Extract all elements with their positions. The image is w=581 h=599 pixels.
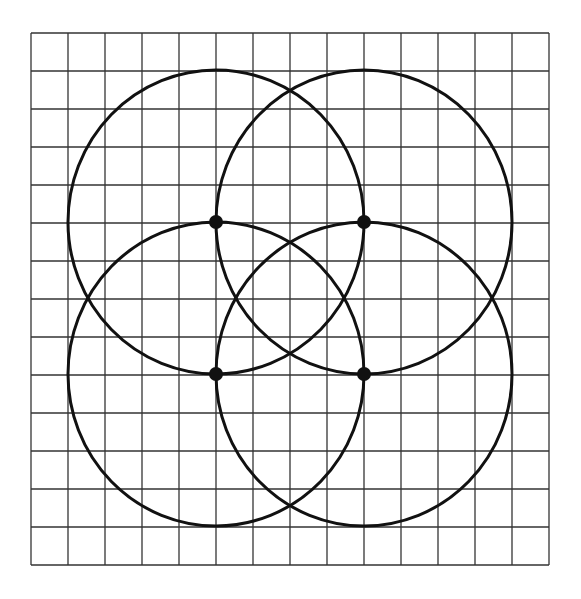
grid (31, 33, 549, 565)
circle-grid-diagram (0, 0, 581, 599)
center-point (209, 215, 223, 229)
center-point (357, 367, 371, 381)
center-point (357, 215, 371, 229)
center-point (209, 367, 223, 381)
